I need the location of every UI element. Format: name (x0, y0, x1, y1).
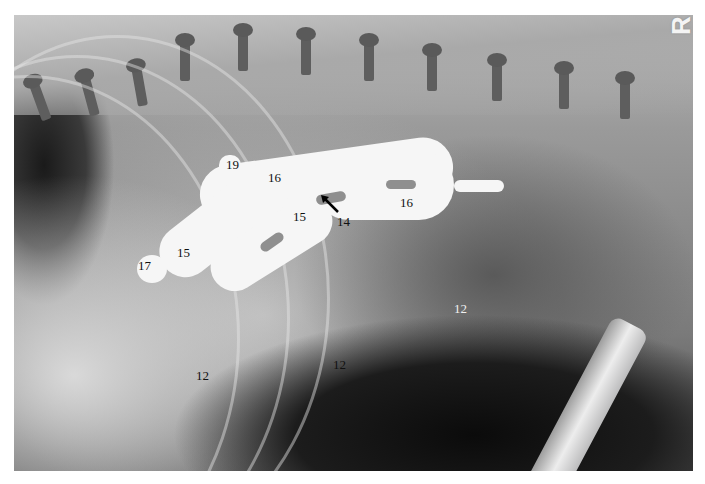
label-12: 12 (333, 358, 346, 371)
label-15: 15 (177, 246, 190, 259)
label-17: 17 (138, 259, 151, 272)
vertebra-spinous-process (427, 45, 437, 91)
label-12: 12 (196, 369, 209, 382)
lumen-gap (386, 180, 416, 189)
side-marker: R (666, 16, 697, 35)
vertebra-spinous-process (559, 63, 569, 109)
vertebra-spinous-process (364, 35, 374, 81)
vertebra-spinous-process (492, 55, 502, 101)
vertebra-spinous-process (238, 25, 248, 71)
label-16: 16 (400, 196, 413, 209)
label-19: 19 (226, 158, 239, 171)
label-15: 15 (293, 210, 306, 223)
vertebra-spinous-process (620, 73, 630, 119)
label-16: 16 (268, 171, 281, 184)
label-12: 12 (454, 302, 467, 315)
arrow-icon (318, 192, 342, 216)
vertebra-spinous-process (301, 29, 311, 75)
limb-bone (520, 315, 649, 471)
contrast-loop (454, 180, 504, 192)
label-14: 14 (337, 215, 350, 228)
radiograph-image (14, 15, 693, 471)
